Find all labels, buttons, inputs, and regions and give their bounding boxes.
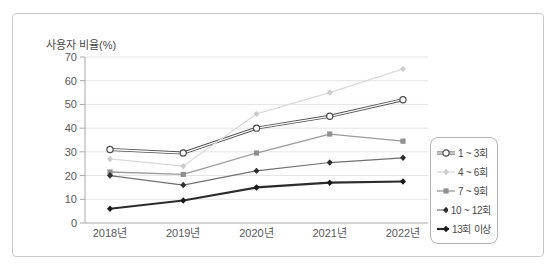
diamond-marker xyxy=(400,155,406,161)
legend-item: 7 ~ 9회 xyxy=(437,183,491,198)
diamond-marker xyxy=(180,197,186,203)
diamond-marker xyxy=(443,206,448,212)
y-tick-label: 60 xyxy=(65,75,77,87)
legend: 1 ~ 3회4 ~ 6회7 ~ 9회10 ~ 12회13회 이상 xyxy=(430,137,498,244)
diamond-marker xyxy=(443,225,449,231)
diamond-marker xyxy=(400,66,406,72)
square-marker xyxy=(327,131,332,136)
diamond-marker xyxy=(400,178,406,184)
square-marker xyxy=(254,150,259,155)
legend-label: 1 ~ 3회 xyxy=(458,145,488,160)
legend-label: 4 ~ 6회 xyxy=(458,164,488,179)
legend-item: 13회 이상 xyxy=(437,221,491,236)
legend-item: 4 ~ 6회 xyxy=(437,164,491,179)
legend-label: 7 ~ 9회 xyxy=(458,183,488,198)
square-marker xyxy=(400,139,405,144)
x-tick-label: 2021년 xyxy=(313,227,347,239)
diamond-marker xyxy=(254,168,260,174)
legend-marker-icon xyxy=(437,148,455,158)
diamond-marker xyxy=(327,179,333,185)
y-tick-label: 10 xyxy=(65,193,77,205)
diamond-marker xyxy=(180,182,186,188)
diamond-marker xyxy=(107,156,113,162)
x-tick-label: 2019년 xyxy=(166,227,200,239)
diamond-marker xyxy=(254,184,260,190)
square-marker xyxy=(181,172,186,177)
y-tick-label: 70 xyxy=(65,51,77,63)
y-tick-label: 20 xyxy=(65,170,77,182)
legend-marker-icon xyxy=(437,186,455,196)
x-tick-label: 2020년 xyxy=(239,227,273,239)
legend-item: 1 ~ 3회 xyxy=(437,145,491,160)
open-circle-marker xyxy=(443,149,449,155)
open-circle-marker xyxy=(180,150,186,156)
legend-label: 13회 이상 xyxy=(452,221,491,236)
square-marker xyxy=(443,188,448,193)
page: 사용자 비율(%) 0102030405060702018년2019년2020년… xyxy=(0,0,557,271)
diamond-marker xyxy=(107,206,113,212)
legend-item: 10 ~ 12회 xyxy=(437,202,491,217)
legend-marker-icon xyxy=(437,224,449,234)
y-tick-label: 50 xyxy=(65,98,77,110)
diamond-marker xyxy=(443,168,449,174)
x-tick-label: 2018년 xyxy=(93,227,127,239)
open-circle-marker xyxy=(253,125,259,131)
open-circle-marker xyxy=(327,113,333,119)
diamond-marker xyxy=(327,89,333,95)
y-tick-label: 0 xyxy=(71,217,77,229)
open-circle-marker xyxy=(400,97,406,103)
open-circle-marker xyxy=(107,146,113,152)
x-tick-label: 2022년 xyxy=(386,227,420,239)
y-tick-label: 40 xyxy=(65,122,77,134)
diamond-marker xyxy=(327,159,333,165)
legend-label: 10 ~ 12회 xyxy=(451,202,491,217)
legend-marker-icon xyxy=(437,205,448,215)
legend-marker-icon xyxy=(437,167,455,177)
y-tick-label: 30 xyxy=(65,146,77,158)
